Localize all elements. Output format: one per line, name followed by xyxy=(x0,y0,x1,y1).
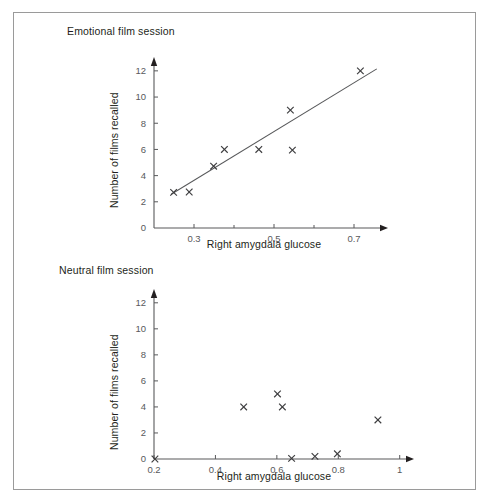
y-axis-tick-label: 0 xyxy=(141,222,146,233)
data-point-marker xyxy=(287,107,294,114)
y-axis-tick-label: 0 xyxy=(141,453,146,464)
regression-line xyxy=(171,69,377,194)
y-axis-tick-label: 10 xyxy=(135,91,146,102)
y-axis-title-emotional: Number of films recalled xyxy=(108,92,120,208)
data-point-marker xyxy=(334,450,341,457)
x-axis-tick-label: 1 xyxy=(397,464,402,475)
data-point-marker xyxy=(240,404,247,411)
scatter-plot-emotional: 0246810120.30.50.7 xyxy=(14,13,477,259)
data-point-marker xyxy=(357,68,364,75)
x-axis-arrow-icon xyxy=(406,456,414,462)
y-axis-tick-label: 4 xyxy=(141,170,146,181)
data-point-marker xyxy=(288,455,295,462)
data-point-marker xyxy=(375,417,382,424)
data-point-marker xyxy=(186,189,193,196)
data-point-marker xyxy=(279,404,286,411)
data-point-marker xyxy=(289,147,296,154)
y-axis-tick-label: 8 xyxy=(141,349,146,360)
y-axis-tick-label: 2 xyxy=(141,196,146,207)
chart-panel-emotional: Emotional film session 0246810120.30.50.… xyxy=(14,13,477,259)
y-axis-tick-label: 6 xyxy=(141,375,146,386)
data-point-marker xyxy=(256,146,263,153)
y-axis-arrow-icon xyxy=(151,289,157,298)
data-point-marker xyxy=(274,391,281,398)
data-point-marker xyxy=(221,146,228,153)
x-axis-arrow-icon xyxy=(380,225,388,231)
x-axis-title-emotional: Right amygdala glucose xyxy=(154,238,374,250)
y-axis-title-neutral: Number of films recalled xyxy=(108,334,120,450)
y-axis-tick-label: 12 xyxy=(135,65,146,76)
x-axis-title-neutral: Right amygdala glucose xyxy=(164,470,384,482)
y-axis-tick-label: 8 xyxy=(141,118,146,129)
scatter-plot-neutral: 0246810120.20.40.60.81 xyxy=(14,259,477,491)
y-axis-tick-label: 6 xyxy=(141,144,146,155)
y-axis-tick-label: 12 xyxy=(135,297,146,308)
y-axis-arrow-icon xyxy=(151,57,157,66)
y-axis-tick-label: 2 xyxy=(141,427,146,438)
y-axis-tick-label: 10 xyxy=(135,323,146,334)
figure-frame: Emotional film session 0246810120.30.50.… xyxy=(13,12,476,490)
chart-panel-neutral: Neutral film session 0246810120.20.40.60… xyxy=(14,259,477,491)
data-point-marker xyxy=(170,189,177,196)
x-axis-tick-label: 0.2 xyxy=(147,464,160,475)
y-axis-tick-label: 4 xyxy=(141,401,146,412)
